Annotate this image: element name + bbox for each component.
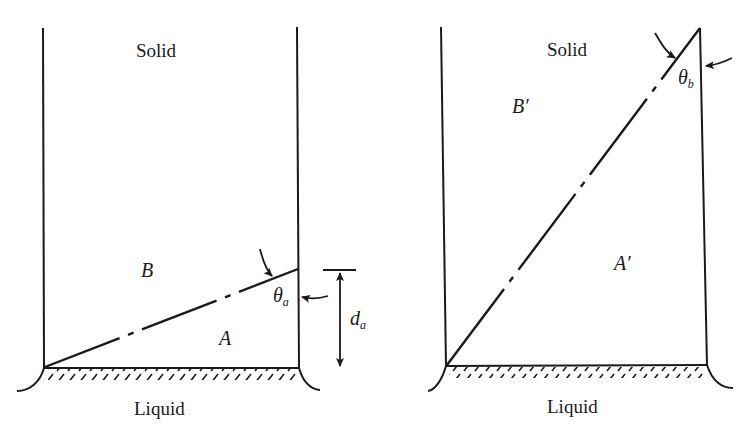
panel-b-angle-label: θb <box>678 66 694 91</box>
panel-b-solid-label: Solid <box>547 39 588 60</box>
panel-a-region-a-label: A <box>217 327 232 349</box>
panel-a-angle-label: θa <box>273 284 289 309</box>
panel-a-left-wall <box>43 28 44 368</box>
panel-b-right-wall <box>700 28 707 366</box>
panel-a-right-meniscus <box>299 368 320 390</box>
panel-b-base-hatching <box>449 367 705 378</box>
panel-a-right-wall <box>297 27 299 368</box>
panel-b-angle-arrow-top <box>655 33 675 58</box>
panel-b-liquid-label: Liquid <box>547 396 598 417</box>
panel-a-angle-arrow-top <box>260 249 272 276</box>
panel-b-right-meniscus <box>707 365 733 388</box>
panel-a-interface-line <box>45 269 298 367</box>
panel-b-region-b-label: B′ <box>512 95 529 117</box>
panel-b: Solid Liquid B′ A′ θb <box>428 27 733 417</box>
panel-a-angle-arrow-side <box>302 296 328 298</box>
panel-a-base-hatching <box>48 369 296 380</box>
panel-a-region-b-label: B <box>141 259 153 281</box>
panel-b-angle-arrow-side <box>706 58 732 66</box>
solidification-interface-diagram: Solid Liquid B A θa da Solid Liquid B′ A… <box>0 0 756 438</box>
panel-b-left-meniscus <box>428 366 446 391</box>
panel-a-solid-label: Solid <box>136 40 177 61</box>
panel-b-left-wall <box>441 27 446 366</box>
panel-b-interface-line <box>447 28 700 365</box>
panel-b-region-a-label: A′ <box>612 252 631 274</box>
panel-a-dimension-label: da <box>350 307 366 332</box>
panel-b-base-line <box>446 365 707 366</box>
panel-a-left-meniscus <box>17 368 44 391</box>
panel-a: Solid Liquid B A θa da <box>17 27 366 419</box>
panel-a-liquid-label: Liquid <box>134 398 185 419</box>
